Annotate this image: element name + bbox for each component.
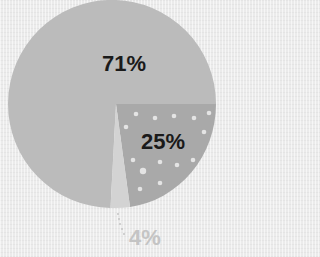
label-25: 25% [141,129,185,154]
label-71: 71% [102,51,146,76]
label-4: 4% [129,225,161,250]
pie-slice-25-dots [116,104,216,207]
leader-line-4 [117,213,125,235]
pie-chart: 71% 25% 4% [0,0,232,257]
